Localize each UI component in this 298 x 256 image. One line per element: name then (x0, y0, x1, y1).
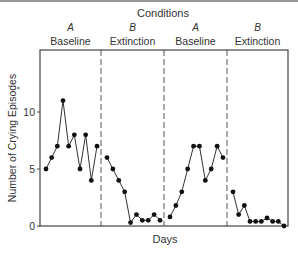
phase-name: Baseline (50, 35, 90, 47)
data-point (173, 203, 178, 208)
data-point (221, 155, 226, 160)
phase-letter: A (66, 22, 74, 33)
data-point (152, 212, 157, 217)
y-tick-label: 0 (29, 220, 35, 232)
data-point (242, 203, 247, 208)
data-point (179, 189, 184, 194)
reversal-design-chart: Conditions ABaselineBExtinctionABaseline… (0, 0, 298, 256)
data-point (61, 98, 66, 103)
phase-letter: A (191, 22, 199, 33)
data-point (49, 155, 54, 160)
data-point (253, 219, 258, 224)
data-point (95, 144, 100, 149)
data-point (197, 144, 202, 149)
data-point (44, 167, 49, 172)
y-axis-label-mark: * (15, 86, 24, 89)
data-point (55, 144, 60, 149)
data-point (158, 218, 163, 223)
data-point (168, 214, 173, 219)
phase-dividers (101, 50, 227, 226)
phase-letter: B (129, 22, 136, 33)
data-point (259, 219, 264, 224)
y-axis-label: Number of Crying Episodes (6, 74, 18, 202)
chart-title: Conditions (137, 7, 189, 19)
data-point (83, 132, 88, 137)
phase-line (46, 101, 97, 181)
data-point (146, 218, 151, 223)
y-tick-label: 10 (23, 106, 35, 118)
data-point (203, 178, 208, 183)
data-point (276, 219, 281, 224)
data-point (140, 218, 145, 223)
y-tick-label: 5 (29, 163, 35, 175)
data-point (191, 144, 196, 149)
phase-name: Baseline (175, 35, 215, 47)
data-point (78, 167, 83, 172)
phase-headers: ABaselineBExtinctionABaselineBExtinction (50, 22, 280, 47)
data-point (270, 219, 275, 224)
data-point (248, 219, 253, 224)
data-point (134, 212, 139, 217)
phase-name: Extinction (235, 35, 281, 47)
data-point (215, 144, 220, 149)
data-point (282, 224, 287, 229)
data-point (236, 212, 241, 217)
data-point (116, 178, 121, 183)
data-point (89, 178, 94, 183)
y-axis-ticks: 0510 (23, 106, 40, 232)
phase-line (107, 158, 160, 223)
phase-name: Extinction (110, 35, 156, 47)
data-point (265, 216, 270, 221)
data-point (128, 220, 133, 225)
data-point (66, 144, 71, 149)
data-point (105, 155, 110, 160)
data-point (231, 189, 236, 194)
data-point (185, 167, 190, 172)
data-point (110, 167, 115, 172)
data-point (72, 132, 77, 137)
data-point (209, 167, 214, 172)
x-axis-label: Days (152, 233, 178, 245)
data-point (122, 189, 127, 194)
data-series (44, 98, 287, 228)
phase-letter: B (254, 22, 261, 33)
